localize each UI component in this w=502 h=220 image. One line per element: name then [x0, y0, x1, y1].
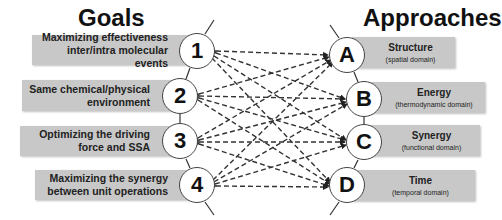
approach-b-subtitle: (thermodynamic domain) — [395, 99, 472, 110]
goal-2-line1: Same chemical/physical — [29, 83, 150, 96]
approach-a-title: Structure — [388, 41, 432, 54]
approach-box-d: Time (temporal domain) — [352, 170, 475, 201]
approach-c-title: Synergy — [412, 129, 451, 142]
approach-box-c: Synergy (functional domain) — [369, 125, 480, 156]
goal-node-2: 2 — [162, 78, 198, 114]
approach-node-c: C — [346, 124, 382, 160]
goals-heading: Goals — [78, 6, 145, 30]
goal-4-line2: between unit operations — [47, 185, 168, 198]
goal-node-4: 4 — [179, 167, 215, 203]
goal-node-1: 1 — [179, 33, 215, 69]
approach-d-title: Time — [409, 174, 432, 187]
goal-box-3: Optimizing the driving force and SSA — [20, 126, 174, 156]
approach-b-title: Energy — [417, 86, 451, 99]
goal-1-line1: Maximizing effectiveness — [42, 31, 168, 44]
approach-box-a: Structure (spatial domain) — [352, 37, 455, 68]
goal-2-line2: environment — [87, 96, 150, 109]
approach-node-b: B — [346, 81, 382, 117]
goal-4-line1: Maximizing the synergy — [50, 172, 168, 185]
approach-a-subtitle: (spatial domain) — [386, 54, 436, 65]
goal-node-3: 3 — [162, 123, 198, 159]
goal-box-4: Maximizing the synergy between unit oper… — [35, 170, 192, 200]
goal-3-line2: force and SSA — [78, 141, 150, 154]
goal-box-1: Maximizing effectiveness inter/intra mol… — [32, 35, 192, 65]
approach-box-b: Energy (thermodynamic domain) — [369, 82, 485, 113]
goal-1-line2: inter/intra molecular events — [32, 44, 168, 70]
approach-d-subtitle: (temporal domain) — [392, 187, 449, 198]
approach-c-subtitle: (functional domain) — [402, 142, 462, 153]
approaches-heading: Approaches — [363, 6, 502, 30]
goal-3-line1: Optimizing the driving — [39, 128, 150, 141]
goal-box-2: Same chemical/physical environment — [22, 80, 174, 111]
approach-node-a: A — [329, 37, 365, 73]
approach-node-d: D — [329, 167, 365, 203]
